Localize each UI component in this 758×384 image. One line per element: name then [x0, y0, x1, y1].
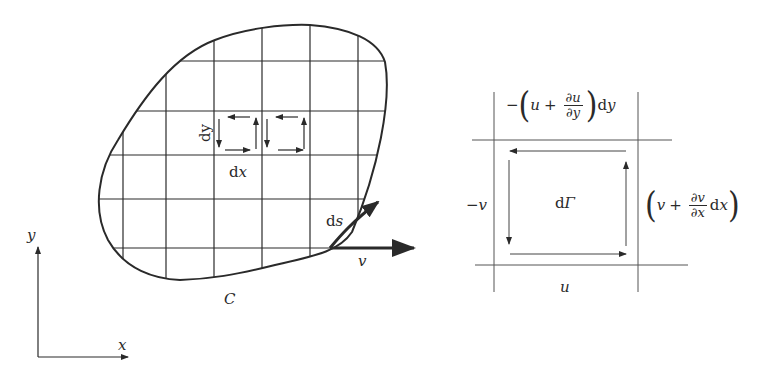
contour-label: C	[224, 290, 236, 308]
coordinate-axes	[38, 247, 128, 357]
element-circulation-label: dΓ	[555, 194, 576, 212]
bottom-edge-velocity-label: u	[560, 278, 570, 296]
partial-fraction: ∂v ∂x	[689, 191, 707, 220]
plus-sign: +	[544, 96, 557, 114]
fraction-denominator: ∂y	[564, 106, 582, 120]
dy-term: dy	[597, 96, 615, 114]
close-paren: )	[728, 188, 740, 223]
fraction-numerator: ∂v	[689, 191, 707, 206]
open-paren: (	[519, 88, 531, 123]
dy-label: dy	[196, 123, 214, 142]
var-u: u	[530, 96, 540, 114]
close-paren: )	[586, 88, 598, 123]
var-v: v	[657, 196, 665, 214]
ds-label: ds	[326, 212, 344, 230]
fraction-denominator: ∂x	[689, 206, 707, 220]
contour-c	[99, 25, 387, 280]
cell-circulation-arrows-left	[219, 117, 256, 150]
top-edge-expression: − ( u + ∂u ∂y ) dy	[506, 90, 615, 120]
cell-circulation-arrows-right	[267, 117, 304, 150]
velocity-label: v	[358, 252, 367, 270]
fraction-numerator: ∂u	[564, 91, 583, 106]
left-edge-velocity-label: −v	[466, 196, 488, 214]
partial-fraction: ∂u ∂y	[564, 91, 583, 120]
open-paren: (	[645, 188, 657, 223]
x-axis-label: x	[118, 336, 127, 354]
dx-term: dx	[710, 196, 728, 214]
minus-sign: −	[506, 96, 519, 114]
plus-sign: +	[669, 196, 682, 214]
dx-label: dx	[229, 163, 248, 181]
y-axis-label: y	[26, 226, 36, 244]
right-edge-expression: ( v + ∂v ∂x dx )	[645, 190, 740, 220]
